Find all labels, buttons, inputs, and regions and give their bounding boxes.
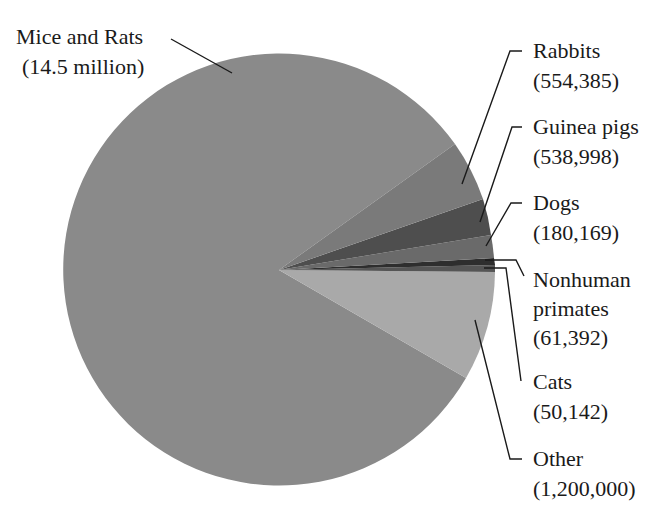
leader-rabbits [462,51,522,184]
label-rabbits-value: (554,385) [533,68,619,93]
pie-chart-svg: Mice and Rats (14.5 million) Rabbits (55… [0,0,663,515]
label-cats-name: Cats [533,369,572,394]
label-guinea-pigs-name: Guinea pigs [533,114,639,139]
label-dogs-name: Dogs [533,190,579,215]
label-primates-name-1: Nonhuman [533,267,631,292]
label-rabbits-name: Rabbits [533,38,600,63]
leader-guinea-pigs [480,127,522,222]
label-dogs-value: (180,169) [533,220,619,245]
label-primates-value: (61,392) [533,325,608,350]
label-other-value: (1,200,000) [533,476,636,501]
label-other-name: Other [533,446,584,471]
label-guinea-pigs-value: (538,998) [533,144,619,169]
label-mice-and-rats-name: Mice and Rats [16,24,143,49]
label-primates-name-2: primates [533,296,609,321]
label-cats-value: (50,142) [533,399,608,424]
label-mice-and-rats-value: (14.5 million) [22,54,144,79]
leader-mice-and-rats [171,39,232,73]
pie-chart: Mice and Rats (14.5 million) Rabbits (55… [0,0,663,515]
